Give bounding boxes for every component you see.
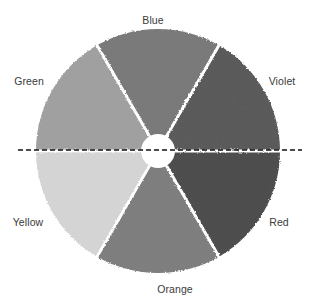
label-red: Red: [269, 216, 289, 228]
label-blue: Blue: [142, 14, 163, 26]
label-orange: Orange: [157, 283, 193, 295]
label-violet: Violet: [269, 75, 296, 87]
label-green: Green: [14, 75, 44, 87]
center-hole: [141, 134, 175, 168]
color-wheel: [0, 0, 312, 305]
label-yellow: Yellow: [13, 216, 44, 228]
